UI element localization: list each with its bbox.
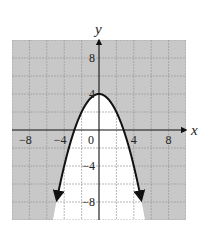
x-tick-label: 0: [88, 133, 94, 147]
x-axis-label: x: [190, 122, 198, 138]
y-tick-label: −8: [82, 195, 95, 209]
x-tick-label: −8: [19, 133, 32, 147]
y-tick-label: 4: [89, 87, 95, 101]
chart-svg: −8−404884−4−8 x y: [0, 0, 201, 229]
x-tick-label: 8: [166, 133, 172, 147]
y-axis-label: y: [93, 21, 102, 37]
x-tick-label: 4: [131, 133, 137, 147]
x-tick-label: −4: [54, 133, 67, 147]
y-tick-label: −4: [82, 159, 95, 173]
y-tick-label: 8: [89, 51, 95, 65]
